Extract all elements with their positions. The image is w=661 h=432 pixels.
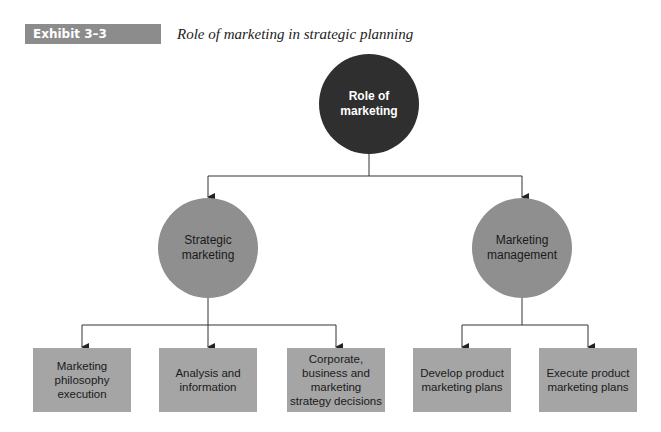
box-execute-product-marketing-plans: Execute productmarketing plans xyxy=(539,348,637,412)
box-label-line: marketing plans xyxy=(547,381,628,393)
node-marketing-management: Marketingmanagement xyxy=(472,198,572,298)
box-label-line: business and xyxy=(302,367,370,379)
box-label-line: execution xyxy=(57,388,106,400)
box-label-line: Marketing xyxy=(57,360,108,372)
box-label-line: Corporate, xyxy=(309,353,363,365)
box-label-line: marketing xyxy=(311,381,362,393)
node-label-line: management xyxy=(487,248,557,262)
box-label-line: Execute product xyxy=(546,367,629,379)
diagram-canvas: Exhibit 3–3 Role of marketing in strateg… xyxy=(0,0,661,432)
node-label-line: Strategic xyxy=(184,233,231,247)
box-marketing-philosophy-execution: Marketingphilosophyexecution xyxy=(33,348,131,412)
box-strategy-decisions: Corporate,business andmarketingstrategy … xyxy=(287,348,385,412)
box-develop-product-marketing-plans: Develop productmarketing plans xyxy=(413,348,511,412)
node-label-line: marketing xyxy=(340,104,397,118)
box-label-line: Analysis and xyxy=(175,367,240,379)
box-label-line: marketing plans xyxy=(421,381,502,393)
node-label-line: marketing xyxy=(182,248,235,262)
node-strategic-marketing: Strategicmarketing xyxy=(158,198,258,298)
box-label-line: philosophy xyxy=(55,374,110,386)
box-label-line: Develop product xyxy=(420,367,504,379)
box-label-line: information xyxy=(180,381,237,393)
node-label-line: Marketing xyxy=(496,233,549,247)
node-role-of-marketing: Role ofmarketing xyxy=(319,54,419,154)
box-analysis-and-information: Analysis andinformation xyxy=(159,348,257,412)
node-label-line: Role of xyxy=(349,89,390,103)
box-label-line: strategy decisions xyxy=(290,395,382,407)
